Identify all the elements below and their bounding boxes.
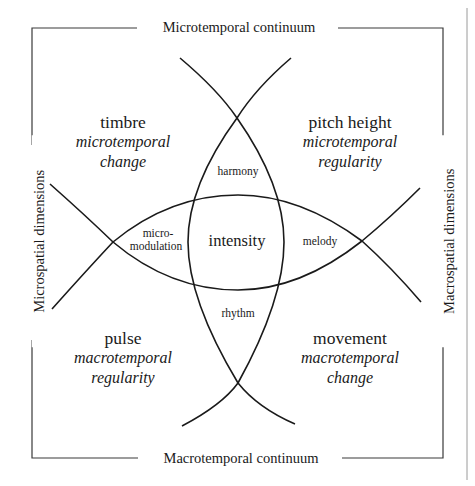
quadrant-subtitle: microtemporal (295, 132, 405, 152)
quadrant-timbre: timbre microtemporal change (68, 112, 178, 172)
bottom-axis-label: Macrotemporal continuum (140, 451, 342, 466)
left-axis-label: Microspatial dimensions (32, 135, 47, 347)
quadrant-movement: movement macrotemporal change (295, 328, 405, 388)
quadrant-title: movement (295, 328, 405, 348)
region-harmony: harmony (208, 166, 268, 178)
quadrant-subtitle: macrotemporal (68, 348, 178, 368)
quadrant-subtitle: regularity (295, 152, 405, 172)
quadrant-subtitle: change (68, 152, 178, 172)
quadrant-pitch-height: pitch height microtemporal regularity (295, 112, 405, 172)
quadrant-subtitle: regularity (68, 368, 178, 388)
quadrant-title: pitch height (295, 112, 405, 132)
region-micromodulation-line2: modulation (124, 241, 188, 253)
region-micromodulation-line1: micro- (128, 228, 188, 240)
region-melody: melody (290, 236, 350, 248)
quadrant-title: pulse (68, 328, 178, 348)
horizontal-curve-b (52, 195, 421, 309)
right-axis-label: Macrospatial dimensions (442, 135, 457, 347)
top-axis-label: Microtemporal continuum (140, 20, 338, 35)
region-rhythm: rhythm (208, 308, 268, 320)
quadrant-title: timbre (68, 112, 178, 132)
quadrant-subtitle: macrotemporal (295, 348, 405, 368)
quadrant-subtitle: change (295, 368, 405, 388)
quadrant-subtitle: microtemporal (68, 132, 178, 152)
region-intensity: intensity (193, 233, 281, 250)
quadrant-pulse: pulse macrotemporal regularity (68, 328, 178, 388)
